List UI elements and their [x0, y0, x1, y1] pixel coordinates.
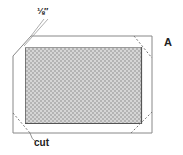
inner-picture-area — [25, 47, 142, 124]
measure-line-inner — [24, 19, 48, 46]
cut-label: cut — [34, 138, 49, 148]
corner-cut-diagram: ⅛″ A cut — [0, 0, 183, 155]
figure-label: A — [164, 37, 172, 48]
diagram-canvas — [0, 0, 183, 155]
measure-line-outer — [31, 19, 44, 36]
measurement-label: ⅛″ — [37, 7, 48, 16]
